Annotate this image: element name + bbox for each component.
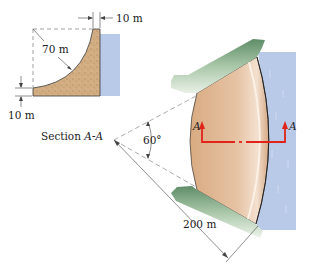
dam-diagram: 70 m 10 m 10 m Section A-A (0, 0, 318, 276)
base-arrow-top (19, 83, 23, 88)
angle-arrow-bottom (146, 154, 150, 159)
angle-ray-bottom (114, 140, 196, 187)
crest-arrow-right (100, 16, 105, 20)
angle-arrow-top (146, 121, 150, 126)
crest-width-label: 10 m (116, 12, 143, 24)
base-height-label: 10 m (8, 109, 35, 121)
angle-label: 60° (143, 134, 162, 146)
section-water (100, 34, 120, 96)
plan-view: 60° 200 m A A (114, 39, 297, 262)
radius-arrowhead (67, 66, 72, 70)
section-radius-label: 70 m (42, 43, 69, 55)
section-view: 70 m 10 m 10 m Section A-A (8, 12, 143, 142)
base-arrow-bottom (19, 96, 23, 101)
section-marker-left: A (192, 120, 201, 132)
radius-leader (33, 29, 44, 41)
radius-ext-line (226, 226, 258, 262)
plan-radius-label: 200 m (183, 218, 216, 230)
section-dam-body (33, 29, 100, 96)
crest-arrow-left (88, 16, 93, 20)
section-marker-right: A (288, 120, 297, 132)
section-caption: Section A-A (41, 130, 103, 142)
